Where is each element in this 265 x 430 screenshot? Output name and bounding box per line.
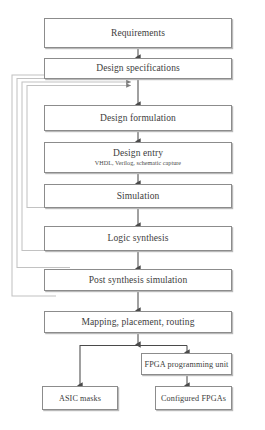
node-fpga-programming-unit-label: FPGA programming unit bbox=[145, 359, 229, 370]
node-fpga-programming-unit[interactable]: FPGA programming unit bbox=[141, 353, 232, 375]
node-design-entry[interactable]: Design entry VHDL, Verilog, schematic ca… bbox=[44, 142, 232, 173]
edge-branch-to-asic-masks bbox=[80, 346, 138, 386]
node-design-entry-label: Design entry bbox=[113, 148, 163, 159]
node-post-synthesis-simulation[interactable]: Post synthesis simulation bbox=[44, 269, 232, 291]
node-simulation[interactable]: Simulation bbox=[44, 184, 232, 208]
node-design-specifications-label: Design specifications bbox=[96, 63, 180, 74]
node-logic-synthesis-label: Logic synthesis bbox=[108, 233, 169, 244]
node-asic-masks[interactable]: ASIC masks bbox=[42, 386, 118, 410]
node-simulation-label: Simulation bbox=[117, 191, 160, 202]
flowchart-canvas: Requirements Design specifications Desig… bbox=[0, 0, 265, 430]
node-design-entry-subtitle: VHDL, Verilog, schematic capture bbox=[95, 160, 181, 168]
node-mapping-placement-routing-label: Mapping, placement, routing bbox=[82, 317, 195, 328]
node-post-synthesis-simulation-label: Post synthesis simulation bbox=[89, 275, 188, 286]
node-requirements-label: Requirements bbox=[111, 28, 165, 39]
node-configured-fpgas-label: Configured FPGAs bbox=[161, 393, 226, 404]
node-design-formulation-label: Design formulation bbox=[100, 113, 176, 124]
node-asic-masks-label: ASIC masks bbox=[59, 393, 101, 404]
node-design-formulation[interactable]: Design formulation bbox=[44, 105, 232, 131]
node-configured-fpgas[interactable]: Configured FPGAs bbox=[155, 386, 232, 410]
node-logic-synthesis[interactable]: Logic synthesis bbox=[44, 226, 232, 251]
node-requirements[interactable]: Requirements bbox=[44, 18, 232, 48]
node-mapping-placement-routing[interactable]: Mapping, placement, routing bbox=[44, 311, 232, 333]
node-design-specifications[interactable]: Design specifications bbox=[44, 58, 232, 79]
